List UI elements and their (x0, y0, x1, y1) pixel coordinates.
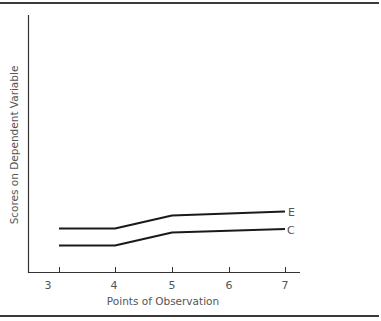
x-tick-label: 3 (45, 279, 52, 292)
x-axis-title: Points of Observation (107, 295, 219, 307)
x-tick-label: 4 (111, 279, 118, 292)
x-tick-labels: 3 4 5 6 7 (45, 279, 289, 292)
y-axis-title: Scores on Dependent Variable (8, 66, 20, 225)
series-line-c (59, 229, 285, 246)
x-tick-label: 5 (169, 279, 176, 292)
series-label-e: E (288, 206, 295, 219)
series-label-c: C (287, 224, 295, 237)
line-chart: 3 4 5 6 7 Points of Observation Scores o… (0, 0, 381, 321)
x-tick-label: 7 (282, 279, 289, 292)
x-tick-label: 6 (226, 279, 233, 292)
series-line-e (59, 212, 285, 229)
